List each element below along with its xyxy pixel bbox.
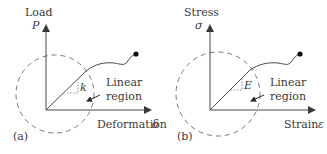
slope-symbol: k [80, 81, 87, 94]
panel-label: (a) [13, 130, 28, 143]
y-axis-title: Load [25, 6, 53, 19]
x-axis-symbol: δ [152, 118, 159, 131]
failure-point [133, 51, 138, 56]
failure-point [297, 51, 302, 56]
panel-label: (b) [177, 130, 193, 143]
panel-a: k Load P Linear region Deformation δ (a) [13, 6, 167, 143]
diagram-canvas: k Load P Linear region Deformation δ (a)… [0, 0, 327, 154]
region-pointer-arrow [251, 95, 264, 101]
region-pointer-arrow [87, 95, 100, 101]
region-label-line2: region [106, 90, 142, 103]
panel-b: E Stress σ Linear region Strain ε (b) [176, 6, 324, 143]
x-axis-symbol: ε [318, 118, 324, 131]
nonlinear-curve [86, 54, 136, 71]
y-axis-symbol: P [31, 19, 40, 32]
region-label-line2: region [270, 90, 306, 103]
x-axis-title: Strain [284, 118, 318, 131]
nonlinear-curve [250, 54, 300, 70]
linear-region-circle [176, 52, 260, 136]
region-label-line1: Linear [106, 76, 143, 89]
y-axis-symbol: σ [195, 19, 203, 32]
linear-region-circle [16, 55, 94, 133]
slope-symbol: E [243, 79, 252, 92]
slope-triangle [231, 79, 242, 90]
region-label-line1: Linear [270, 76, 307, 89]
y-axis-title: Stress [184, 6, 219, 19]
